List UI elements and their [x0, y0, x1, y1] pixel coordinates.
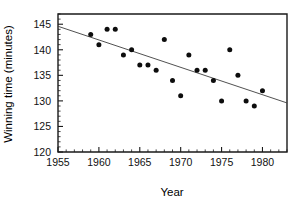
data-point	[162, 37, 167, 42]
data-point	[137, 63, 142, 68]
y-tick-label: 145	[33, 18, 51, 30]
y-tick-label: 135	[33, 69, 51, 81]
data-point	[145, 63, 150, 68]
y-axis-title: Winning time (minutes)	[2, 25, 14, 143]
data-point	[227, 47, 232, 52]
y-tick-label: 140	[33, 44, 51, 56]
data-point	[170, 78, 175, 83]
y-tick-label: 125	[33, 120, 51, 132]
data-point	[219, 98, 224, 103]
scatter-plot: 120125130135140145 195519601965197019751…	[0, 0, 301, 203]
data-point	[186, 52, 191, 57]
x-tick-label: 1955	[46, 156, 70, 168]
data-point	[96, 42, 101, 47]
data-point	[260, 88, 265, 93]
data-point	[121, 52, 126, 57]
x-tick-label: 1970	[169, 156, 193, 168]
data-point	[154, 68, 159, 73]
data-point	[129, 47, 134, 52]
data-point	[235, 73, 240, 78]
data-point	[105, 27, 110, 32]
data-point	[252, 104, 257, 109]
data-point	[195, 68, 200, 73]
data-point	[88, 32, 93, 37]
x-tick-label: 1960	[87, 156, 111, 168]
x-tick-label: 1975	[210, 156, 234, 168]
data-point	[113, 27, 118, 32]
data-point	[211, 78, 216, 83]
x-tick-label: 1965	[128, 156, 152, 168]
y-tick-label: 130	[33, 95, 51, 107]
data-point	[178, 93, 183, 98]
chart-figure: 120125130135140145 195519601965197019751…	[0, 0, 301, 203]
x-tick-label: 1980	[251, 156, 275, 168]
data-point	[203, 68, 208, 73]
data-point	[244, 98, 249, 103]
x-axis-title: Year	[160, 186, 183, 198]
